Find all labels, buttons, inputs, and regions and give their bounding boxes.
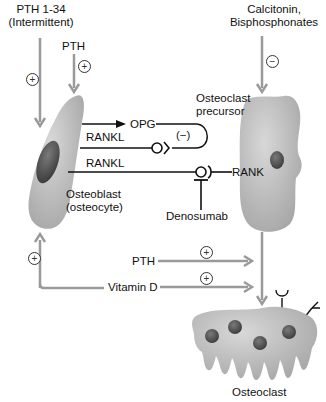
vitamin-d-stimulation-icon: + (200, 272, 213, 285)
pth-top-stimulation-icon: + (78, 60, 91, 73)
denosumab-inhibition (194, 180, 208, 210)
osteoclast-precursor-label: Osteoclast precursor (196, 92, 250, 118)
feedback-stimulation-icon: + (28, 252, 41, 265)
precursor-to-osteoclast-arrow (257, 232, 267, 304)
rankl-label-1: RANKL (86, 131, 124, 144)
osteoblast-label: Osteoblast (osteocyte) (66, 188, 123, 214)
pth-1-34-stimulation-icon: + (26, 73, 39, 86)
osteoclast-nucleus-2 (228, 320, 242, 334)
opg-label: OPG (130, 118, 156, 131)
pth-1-34-label: PTH 1-34 (Intermittent) (6, 3, 76, 29)
precursor-nucleus (270, 151, 284, 169)
pth-top-label: PTH (62, 40, 85, 53)
rankl-label-2: RANKL (86, 157, 124, 170)
denosumab-label: Denosumab (166, 210, 228, 223)
rank-label: RANK (232, 166, 264, 179)
osteoclast-cell (192, 307, 317, 380)
bone-remodeling-diagram: PTH 1-34 (Intermittent) PTH Calcitonin, … (0, 0, 326, 402)
calcitonin-inhibition-icon: − (266, 55, 279, 68)
calcitonin-bisphosphonates-label: Calcitonin, Bisphosphonates (222, 3, 326, 29)
pth-top-arrow (69, 54, 79, 92)
vitamin-d-label: Vitamin D (108, 281, 158, 294)
osteoclast-label: Osteoclast (232, 386, 286, 399)
pth-bottom-label: PTH (132, 255, 155, 268)
opg-arrow (82, 120, 126, 128)
osteoclast-nucleus-1 (205, 329, 219, 343)
opg-inhibition-label: (−) (176, 129, 190, 141)
osteoclast-nucleus-3 (253, 336, 267, 350)
osteoclast-nucleus-4 (282, 325, 296, 339)
pth-bottom-stimulation-icon: + (200, 246, 213, 259)
feedback-arrow (35, 234, 104, 288)
